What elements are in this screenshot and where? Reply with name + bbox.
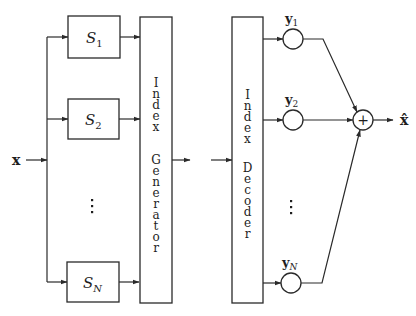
vector-quantizer-block-diagram: x S1 S2 SN I n d e x G e n bbox=[0, 0, 416, 316]
svg-text:y1: y1 bbox=[284, 11, 298, 28]
index-generator-block: I n d e x G e n e r a t o r bbox=[140, 17, 172, 303]
encoder-block-s1: S1 bbox=[68, 16, 120, 58]
encoder-ellipsis bbox=[91, 199, 93, 213]
codevector-yn: yN bbox=[281, 255, 301, 293]
index-decoder-label: I n d e x D e c o d e r bbox=[243, 88, 253, 241]
index-decoder-block: I n d e x D e c o d e r bbox=[232, 17, 263, 303]
codevector-y1: y1 bbox=[283, 11, 303, 49]
yn-to-sum-line bbox=[301, 130, 360, 283]
encoder-block-sn: SN bbox=[67, 262, 119, 302]
encoder-block-s2: S2 bbox=[68, 99, 119, 139]
svg-text:r: r bbox=[153, 241, 159, 255]
svg-text:yN: yN bbox=[281, 255, 299, 272]
codevector-ellipsis bbox=[290, 200, 292, 214]
svg-text:+: + bbox=[357, 112, 369, 128]
svg-text:r: r bbox=[245, 227, 251, 241]
y1-to-sum-line bbox=[303, 39, 357, 112]
svg-text:x: x bbox=[244, 132, 251, 146]
svg-text:x: x bbox=[153, 120, 160, 134]
output-label: x̂ bbox=[400, 112, 409, 128]
summation-node: + bbox=[353, 110, 373, 130]
input-label: x bbox=[12, 152, 21, 168]
svg-text:y2: y2 bbox=[284, 92, 298, 109]
codevector-y2: y2 bbox=[283, 92, 303, 130]
